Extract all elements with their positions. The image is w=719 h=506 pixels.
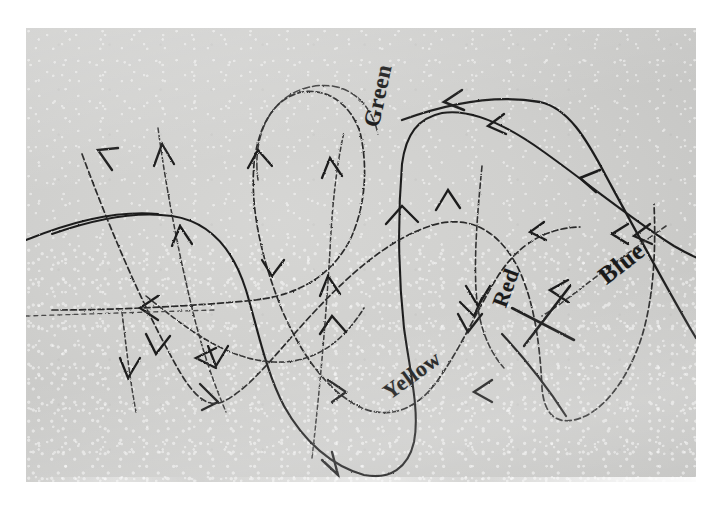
curve-yellow-lobe bbox=[146, 296, 364, 368]
handdrawn-ink-layer bbox=[26, 28, 696, 482]
curve-baseline bbox=[26, 310, 214, 316]
arrowhead-red-6 bbox=[474, 380, 492, 402]
cross-mark-x bbox=[512, 286, 574, 346]
curve-yellow-lobe-path bbox=[146, 296, 364, 362]
arrowhead-red-4 bbox=[436, 190, 460, 210]
arrowhead-red-2 bbox=[146, 334, 170, 354]
scanned-image-canvas: Green Yellow Red Blue bbox=[0, 0, 719, 506]
curve-green-overdraw-path bbox=[257, 85, 378, 180]
arrowhead-yellow-2 bbox=[248, 150, 272, 168]
curve-left-hump-path bbox=[26, 213, 158, 240]
arrowhead-green-3 bbox=[386, 206, 418, 224]
cross-mark-stroke-1 bbox=[512, 308, 574, 340]
curve-blue-path bbox=[402, 99, 696, 338]
arrowhead-descender-1 bbox=[154, 144, 174, 166]
curve-stray-tail bbox=[120, 312, 140, 412]
arrowhead-red-1 bbox=[98, 148, 118, 170]
curve-green bbox=[52, 112, 696, 476]
arrowhead-blue-2 bbox=[580, 170, 600, 192]
curve-baseline-path bbox=[26, 310, 214, 316]
arrowhead-stray-tail-1 bbox=[120, 358, 140, 378]
curve-blue bbox=[402, 90, 696, 338]
arrowhead-red-5 bbox=[458, 314, 482, 332]
cross-mark-stroke-2 bbox=[524, 286, 570, 346]
arrowhead-descender-3 bbox=[208, 346, 228, 366]
paper-sheet: Green Yellow Red Blue bbox=[26, 28, 696, 482]
arrowhead-riser-1 bbox=[320, 276, 340, 296]
curve-stray-tail-path bbox=[122, 312, 136, 412]
curve-green-overdraw bbox=[257, 85, 378, 180]
curve-lower-right-hook bbox=[502, 334, 566, 416]
curve-green-path bbox=[52, 112, 696, 476]
curve-riser bbox=[312, 132, 344, 458]
curve-riser-path bbox=[312, 132, 344, 458]
arrowhead-green-2 bbox=[200, 384, 218, 410]
curve-red-branch bbox=[466, 166, 504, 368]
curve-descender bbox=[154, 128, 228, 412]
curve-left-hump bbox=[26, 213, 158, 240]
curve-lower-right-hook-path bbox=[502, 334, 566, 416]
curve-descender-path bbox=[158, 128, 226, 412]
